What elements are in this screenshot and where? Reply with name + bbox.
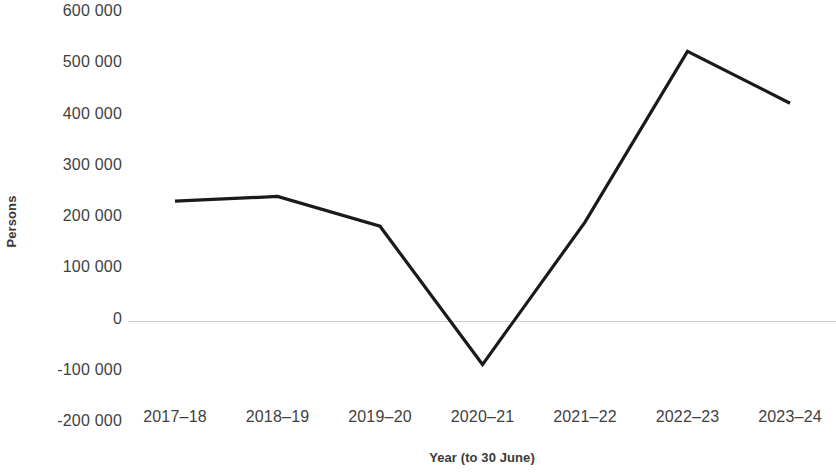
chart-canvas: Persons 600 000500 000400 000300 000200 … — [0, 0, 836, 476]
x-axis-tick-label: 2019–20 — [348, 408, 412, 426]
x-axis-tick-label: 2021–22 — [553, 408, 617, 426]
x-axis-tick-label: 2023–24 — [758, 408, 822, 426]
x-axis-tick-label: 2020–21 — [451, 408, 515, 426]
y-axis-tick-label: 600 000 — [14, 2, 122, 20]
x-axis-title-label: Year (to 30 June) — [429, 450, 535, 465]
x-axis-tick-labels: 2017–182018–192019–202020–212021–222022–… — [0, 408, 836, 434]
y-axis-tick-label: 500 000 — [14, 53, 122, 71]
plot-area — [128, 0, 836, 440]
x-axis-title: Year (to 30 June) — [128, 450, 836, 465]
y-axis-tick-label: 300 000 — [14, 156, 122, 174]
y-axis-tick-label: 400 000 — [14, 105, 122, 123]
x-axis-tick-label: 2018–19 — [246, 408, 310, 426]
y-axis-tick-label: 0 — [14, 310, 122, 328]
x-axis-tick-label: 2017–18 — [143, 408, 207, 426]
y-axis-tick-labels: 600 000500 000400 000300 000200 000100 0… — [14, 0, 122, 476]
y-axis-tick-label: 200 000 — [14, 207, 122, 225]
series-polyline — [175, 51, 790, 364]
data-series-line — [128, 0, 836, 440]
y-axis-tick-label: 100 000 — [14, 258, 122, 276]
y-axis-tick-label: -100 000 — [14, 361, 122, 379]
x-axis-tick-label: 2022–23 — [656, 408, 720, 426]
